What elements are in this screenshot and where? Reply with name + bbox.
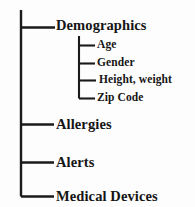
tree-node-allergies: Allergies: [56, 117, 112, 132]
tree-node-medical-devices: Medical Devices: [56, 189, 158, 204]
tree-node-zip-code: Zip Code: [97, 92, 144, 104]
tree-node-alerts: Alerts: [56, 155, 94, 170]
tree-node-height-weight: Height, weight: [99, 74, 172, 86]
tree-node-gender: Gender: [97, 57, 135, 69]
tree-diagram: Demographics Age Gender Height, weight Z…: [0, 0, 195, 207]
tree-node-demographics: Demographics: [56, 18, 147, 33]
tree-node-age: Age: [97, 39, 116, 51]
